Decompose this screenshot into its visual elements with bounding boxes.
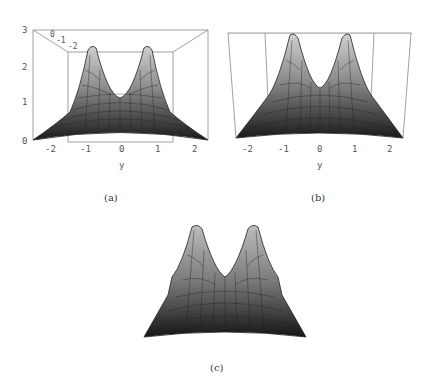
xtick-1: 1 bbox=[352, 144, 357, 154]
surface-plot-a: 3 2 1 0 0 -1 -2 -2 -1 0 1 2 y bbox=[0, 0, 214, 170]
surface-plot-c bbox=[140, 215, 310, 340]
depth-tick-0: 0 bbox=[50, 30, 55, 39]
panel-b: -2 -1 0 1 2 y bbox=[214, 0, 428, 190]
xtick-m2: -2 bbox=[242, 144, 253, 154]
xtick-m2: -2 bbox=[45, 144, 56, 154]
panel-c bbox=[140, 215, 310, 340]
panel-a: 3 2 1 0 0 -1 -2 -2 -1 0 1 2 y bbox=[0, 0, 214, 190]
ytick-3: 3 bbox=[22, 25, 27, 35]
ytick-2: 2 bbox=[22, 62, 27, 72]
depth-tick-1: -1 bbox=[56, 36, 66, 45]
caption-c: (c) bbox=[210, 362, 223, 373]
xtick-0: 0 bbox=[119, 144, 124, 154]
surface-plot-b: -2 -1 0 1 2 y bbox=[214, 0, 428, 170]
depth-tick-2: -2 bbox=[68, 42, 78, 51]
xtick-2: 2 bbox=[192, 144, 197, 154]
xtick-m1: -1 bbox=[278, 144, 289, 154]
caption-a: (a) bbox=[104, 192, 118, 203]
xlabel: y bbox=[119, 160, 125, 170]
xlabel: y bbox=[317, 160, 323, 170]
xtick-m1: -1 bbox=[80, 144, 91, 154]
xtick-1: 1 bbox=[155, 144, 160, 154]
xtick-2: 2 bbox=[387, 144, 392, 154]
xtick-0: 0 bbox=[317, 144, 322, 154]
ytick-0: 0 bbox=[22, 136, 27, 146]
ytick-1: 1 bbox=[22, 97, 27, 107]
caption-b: (b) bbox=[311, 192, 325, 203]
